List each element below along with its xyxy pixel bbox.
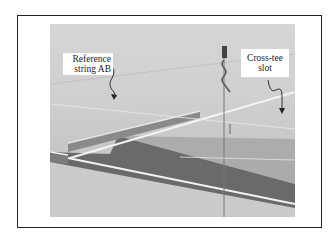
cross-tee-slot-label: Cross-tee slot [241,49,289,77]
label-line: slot [243,63,287,73]
reference-string-label: Reference string AB [63,53,113,75]
label-line: Cross-tee [243,53,287,63]
label-line: Reference [65,54,111,64]
label-line: string AB [65,64,111,74]
